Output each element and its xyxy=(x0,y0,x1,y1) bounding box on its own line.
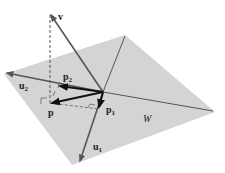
label-p: p xyxy=(48,107,54,118)
orthogonal-projection-diagram: v u2 p2 p p1 u1 W xyxy=(0,0,225,173)
label-u2-sub: 2 xyxy=(25,85,29,93)
label-p1-sub: 1 xyxy=(112,109,116,117)
label-v: v xyxy=(58,11,63,22)
plane-w xyxy=(4,35,215,165)
label-u1-sub: 1 xyxy=(99,146,103,154)
label-p2-sub: 2 xyxy=(69,76,73,84)
